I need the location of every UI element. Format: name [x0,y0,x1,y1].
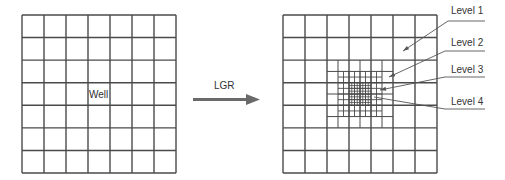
level-2-label: Level 2 [451,38,483,48]
level-3-label: Level 3 [451,65,483,75]
level-4-label: Level 4 [451,97,483,107]
refined-grid [283,15,437,173]
well-label: Well [89,90,108,100]
lgr-diagram [0,0,505,180]
lgr-label: LGR [214,81,235,91]
level-1-label: Level 1 [451,6,483,16]
lgr-arrow-icon [193,94,260,105]
